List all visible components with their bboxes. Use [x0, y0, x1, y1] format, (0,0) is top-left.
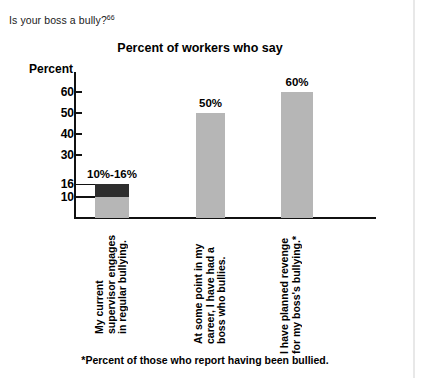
category-label-3: I have planned revenge for my boss's bul… — [279, 226, 315, 354]
page-right-edge — [413, 0, 415, 378]
category-label-1: My current supervisor engages in regular… — [94, 226, 130, 334]
y-tick-60 — [74, 91, 82, 93]
bar-3 — [281, 92, 313, 218]
y-tick-label-10: 10 — [14, 190, 74, 204]
bar-2-value-label: 50% — [166, 97, 256, 109]
category-label-2: At some point in my career, I have had a… — [193, 226, 229, 344]
bar-2 — [196, 113, 225, 218]
figure-container: Is your boss a bully?66 Percent of worke… — [0, 0, 428, 378]
chart-footnote: *Percent of those who report having been… — [0, 354, 410, 366]
y-tick-40 — [74, 133, 82, 135]
bar-1-highlight-segment — [95, 184, 129, 197]
bar-1-value-label: 10%-16% — [67, 168, 157, 180]
chart-title: Percent of workers who say — [0, 41, 400, 55]
y-tick-label-50: 50 — [14, 106, 74, 120]
bar-1 — [95, 184, 129, 218]
y-tick-label-30: 30 — [14, 148, 74, 162]
y-tick-30 — [74, 154, 82, 156]
y-tick-50 — [74, 112, 82, 114]
question-heading-text: Is your boss a bully? — [9, 14, 107, 26]
bar-3-value-label: 60% — [252, 76, 342, 88]
y-tick-label-40: 40 — [14, 127, 74, 141]
question-heading: Is your boss a bully?66 — [9, 14, 115, 26]
y-tick-label-60: 60 — [14, 85, 74, 99]
question-footnote-marker: 66 — [107, 14, 115, 21]
y-axis-label: Percent — [29, 62, 73, 76]
